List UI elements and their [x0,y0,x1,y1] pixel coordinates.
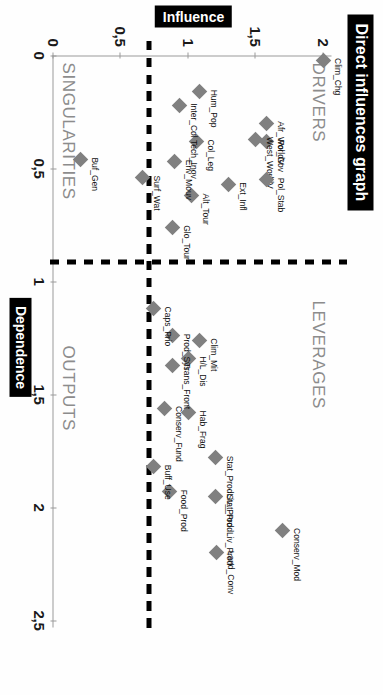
x-tick-label: 0,5 [30,158,47,178]
vertical-reference-line [47,259,347,264]
chart-stage: Direct influences graph DRIVERS LEVERAGE… [0,0,383,695]
x-axis-title: Dependence [9,297,31,396]
x-tick-label: 2 [30,503,47,511]
data-point[interactable] [209,544,225,560]
data-point-label: Conserv_Fund [173,406,183,462]
x-tick [50,281,56,282]
x-tick-label: 1,5 [30,384,47,404]
data-point-label: H/L_Dis [197,356,207,386]
y-tick-label: 1 [180,38,197,46]
y-axis-line [52,55,331,56]
data-point-label: Pol_Stab [275,177,285,212]
data-point-label: Hab_Frag [197,410,207,448]
data-point-label: Pol_Gov [275,139,285,172]
x-axis-line [52,55,53,627]
data-point[interactable] [164,219,180,235]
y-tick-label: 0,5 [112,26,129,46]
x-tick-label: 1 [30,277,47,285]
y-tick [52,52,53,58]
data-point-label: Buff_Use [162,464,172,499]
data-point-label: Clim_Mit [208,338,218,371]
data-point[interactable] [164,357,180,373]
y-tick [187,52,188,58]
data-point-label: Glo_Tour [181,225,191,260]
data-point-label: Col_Leg [205,139,215,171]
y-axis-title: Influence [154,5,231,27]
data-point-label: Caps_Prio [162,306,172,346]
quadrant-label-singularities: SINGULARITIES [57,62,77,199]
data-point-label: Food_Prod [178,489,188,531]
x-tick [50,620,56,621]
data-point[interactable] [207,488,223,504]
data-point-label: Hum_Pop [208,89,218,127]
data-point-label: Conserv_Mod [292,528,302,581]
scatter-plot-area: DRIVERS LEVERAGES SINGULARITIES OUTPUTS … [0,0,383,695]
data-point[interactable] [191,83,207,99]
data-point[interactable] [171,97,187,113]
x-tick [50,168,56,169]
quadrant-label-leverages: LEVERAGES [307,300,327,408]
data-point[interactable] [207,449,223,465]
data-point-label: Land_Conv [225,550,235,593]
data-point-label: Buf_Gen [89,157,99,191]
x-tick [50,394,56,395]
data-point[interactable] [259,115,275,131]
data-point-label: Clim_Chg [332,58,342,95]
quadrant-label-drivers: DRIVERS [307,62,327,142]
y-tick-label: 1,5 [247,26,264,46]
x-tick [50,507,56,508]
quadrant-label-outputs: OUTPUTS [57,345,77,430]
y-tick-label: 2 [315,38,332,46]
data-point-label: Trans_Front [181,363,191,409]
data-point[interactable] [191,332,207,348]
chart-paper: Direct influences graph DRIVERS LEVERAGE… [0,0,383,695]
data-point-label: Ext_Infl [238,182,248,210]
data-point[interactable] [167,153,183,169]
data-point-label: Surf_Wat [151,175,161,210]
data-point[interactable] [221,176,237,192]
x-tick-label: 0 [30,51,47,59]
data-point-label: Alt_Tour [200,193,210,224]
data-point-label: Env_Mouv [184,159,194,199]
y-tick [255,52,256,58]
x-tick-label: 2,5 [30,610,47,630]
data-point[interactable] [275,522,291,538]
horizontal-reference-line [146,40,151,630]
y-tick [120,52,121,58]
y-tick-label: 0 [45,38,62,46]
data-point[interactable] [156,400,172,416]
